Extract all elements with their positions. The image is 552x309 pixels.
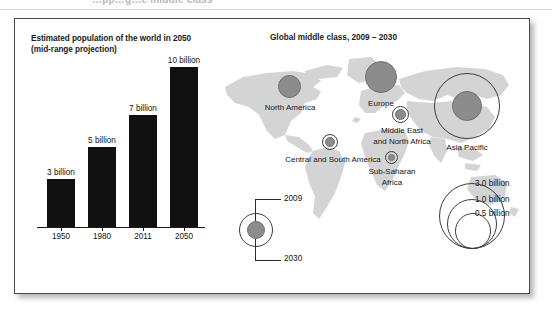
region-label-line1: Sub-Saharan bbox=[368, 167, 415, 176]
region-label-central-south-america: Central and South America bbox=[265, 155, 401, 165]
bar-value-label: 5 billion bbox=[65, 136, 139, 145]
region-label-line1: Middle East bbox=[381, 126, 423, 135]
page-running-header-text: …pp…g…e middle class bbox=[92, 0, 213, 5]
size-key-label-0-5-billion: 0.5 billion bbox=[475, 209, 510, 218]
year-key-leader-2009-vertical bbox=[255, 199, 256, 221]
size-key-label-1-0-billion: 1.0 billion bbox=[475, 195, 510, 204]
x-tick-label-2011: 2011 bbox=[123, 232, 163, 241]
size-key-label-3-0-billion: 3.0 billion bbox=[475, 179, 510, 188]
region-label-line2: Africa bbox=[382, 178, 402, 187]
year-key-inner-bubble-2009 bbox=[247, 221, 265, 239]
bar-chart-panel: Estimated population of the world in 205… bbox=[31, 33, 207, 255]
bubble-asia-pacific-2009 bbox=[452, 91, 482, 121]
bar-column-2011: 7 billion bbox=[129, 115, 157, 227]
x-tick-label-2050: 2050 bbox=[164, 232, 204, 241]
map-title: Global middle class, 2009 – 2030 bbox=[270, 33, 397, 42]
bar-chart-title-line1: Estimated population of the world in 205… bbox=[31, 34, 191, 43]
axis-tick bbox=[102, 227, 103, 231]
year-key-label-2009: 2009 bbox=[284, 194, 302, 203]
ring-central-south-america-2030 bbox=[322, 134, 338, 150]
region-label-asia-pacific: Asia Pacific bbox=[431, 143, 503, 153]
bar-rect bbox=[129, 115, 157, 227]
bar-rect bbox=[47, 179, 75, 227]
size-key-ring-0-5-billion bbox=[455, 213, 491, 249]
year-key-leader-2030-vertical bbox=[255, 239, 256, 261]
bar-column-1950: 3 billion bbox=[47, 179, 75, 227]
axis-tick bbox=[61, 227, 62, 231]
axis-tick bbox=[143, 227, 144, 231]
ring-middle-east-north-africa-2030 bbox=[392, 106, 409, 123]
bubble-north-america-2009 bbox=[278, 75, 301, 98]
bar-chart-x-tick-labels: 1950 1980 2011 2050 bbox=[37, 232, 205, 246]
year-key-leader-2030-horizontal bbox=[255, 260, 281, 261]
bar-chart-plot: 3 billion 5 billion 7 billion 10 billion bbox=[37, 67, 205, 227]
x-tick-label-1950: 1950 bbox=[41, 232, 81, 241]
region-label-line2: and North Africa bbox=[373, 137, 430, 146]
bar-rect bbox=[170, 67, 198, 227]
x-tick-label-1980: 1980 bbox=[82, 232, 122, 241]
bar-chart-title: Estimated population of the world in 205… bbox=[31, 33, 207, 55]
bar-value-label: 7 billion bbox=[106, 104, 180, 113]
year-key-label-2030: 2030 bbox=[284, 254, 302, 263]
bubble-europe-2009 bbox=[365, 61, 397, 93]
map-panel: Global middle class, 2009 – 2030 bbox=[215, 33, 515, 283]
bar-chart-title-line2: (mid-range projection) bbox=[31, 45, 117, 54]
bar-rect bbox=[88, 147, 116, 227]
bar-column-2050: 10 billion bbox=[170, 67, 198, 227]
region-label-sub-saharan-africa: Sub-Saharan Africa bbox=[355, 167, 429, 188]
axis-tick bbox=[184, 227, 185, 231]
page-running-header: …pp…g…e middle class bbox=[0, 0, 552, 11]
year-key: 2009 2030 bbox=[235, 193, 345, 265]
bar-column-1980: 5 billion bbox=[88, 147, 116, 227]
figure-panel: Estimated population of the world in 205… bbox=[14, 18, 530, 294]
header-divider bbox=[0, 9, 552, 10]
region-label-north-america: North America bbox=[243, 103, 337, 113]
year-key-leader-2009-horizontal bbox=[255, 199, 281, 200]
bar-chart-x-axis bbox=[37, 227, 205, 228]
bar-value-label: 3 billion bbox=[24, 168, 98, 177]
size-key: 3.0 billion 1.0 billion 0.5 billion bbox=[437, 173, 543, 269]
